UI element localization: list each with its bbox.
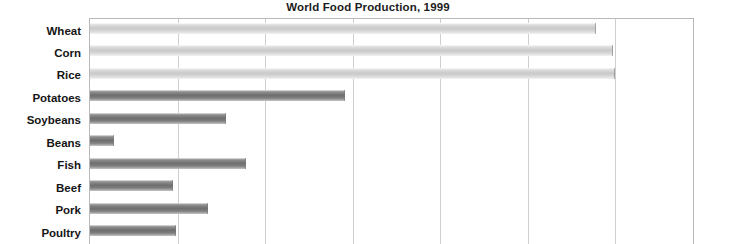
bar-pork bbox=[90, 203, 208, 214]
bar-beans bbox=[90, 135, 114, 146]
bar-fish bbox=[90, 158, 246, 169]
y-axis-label-soybeans: Soybeans bbox=[27, 114, 81, 126]
bar-potatoes bbox=[90, 90, 345, 101]
y-axis-label-potatoes: Potatoes bbox=[32, 92, 81, 104]
bars-layer bbox=[90, 19, 693, 244]
bar-soybeans bbox=[90, 113, 226, 124]
y-axis-label-beef: Beef bbox=[56, 182, 81, 194]
bar-rice bbox=[90, 68, 615, 79]
y-axis-label-poultry: Poultry bbox=[41, 227, 81, 239]
y-axis-label-fish: Fish bbox=[57, 159, 81, 171]
y-axis-label-pork: Pork bbox=[55, 204, 81, 216]
y-axis-label-rice: Rice bbox=[57, 69, 81, 81]
y-axis-label-beans: Beans bbox=[46, 137, 81, 149]
bar-beef bbox=[90, 180, 173, 191]
y-axis-category-labels: Wheat Corn Rice Potatoes Soybeans Beans … bbox=[0, 18, 85, 244]
bar-wheat bbox=[90, 23, 596, 34]
chart-title: World Food Production, 1999 bbox=[0, 1, 736, 13]
chart-container: World Food Production, 1999 Wheat Corn R… bbox=[0, 0, 736, 244]
plot-area bbox=[89, 18, 694, 244]
y-axis-label-wheat: Wheat bbox=[47, 25, 82, 37]
bar-corn bbox=[90, 45, 613, 56]
y-axis-label-corn: Corn bbox=[54, 47, 81, 59]
bar-poultry bbox=[90, 225, 176, 236]
